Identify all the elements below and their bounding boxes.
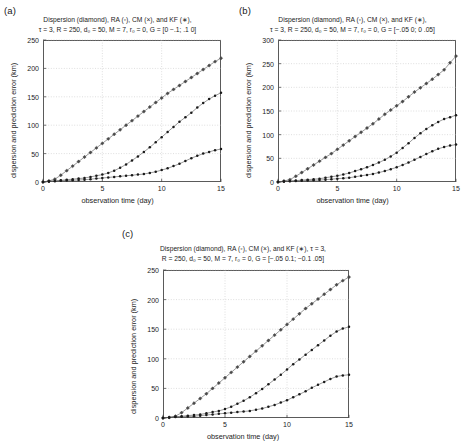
- panel-b-series-markers-2: [277, 143, 458, 183]
- panel-c-x-axis-label: observation time (day): [118, 432, 368, 441]
- panel-b-series-markers-0: [276, 54, 457, 183]
- panel-c-series-markers-0: [161, 275, 350, 419]
- panel-b-series-markers-1: [277, 114, 458, 183]
- panel-c-ytick-250: 250: [147, 267, 159, 274]
- panel-b-ytick-50: 50: [266, 155, 274, 162]
- panel-c-title: Dispersion (diamond), RA (◦), CM (×), an…: [118, 244, 368, 265]
- panel-a-series-markers-2: [42, 148, 223, 183]
- panel-b-ytick-0: 0: [270, 179, 274, 186]
- panel-a-ytick-200: 200: [27, 65, 39, 72]
- panel-b-plot: 050100150200250300051015: [278, 40, 456, 182]
- panel-c-xtick-5: 5: [223, 421, 227, 428]
- panel-a-ytick-250: 250: [27, 37, 39, 44]
- panel-b-xtick-10: 10: [393, 185, 401, 192]
- panel-b-xtick-15: 15: [452, 185, 460, 192]
- panel-c-ytick-50: 50: [151, 385, 159, 392]
- panel-b-ytick-250: 250: [262, 60, 274, 67]
- panel-c-ytick-150: 150: [147, 326, 159, 333]
- panel-a-xtick-15: 15: [217, 185, 225, 192]
- panel-a-title-line-1: Dispersion (diamond), RA (◦), CM (×), an…: [0, 15, 235, 25]
- figure-panel-a: (a) Dispersion (diamond), RA (◦), CM (×)…: [0, 0, 235, 215]
- panel-c-xtick-0: 0: [161, 421, 165, 428]
- panel-b-series-line-0: [278, 56, 456, 182]
- panel-a-x-axis-label: observation time (day): [0, 196, 235, 205]
- panel-c-title-line-1: Dispersion (diamond), RA (◦), CM (×), an…: [118, 244, 368, 254]
- figure-panel-c: (c) Dispersion (diamond), RA (◦), CM (×)…: [118, 218, 368, 440]
- panel-b-title-line-2: τ = 3, R = 250, d₀ = 50, M = 7, r₀ = 0, …: [235, 25, 470, 35]
- panel-a-ytick-0: 0: [35, 179, 39, 186]
- panel-c-series-line-1: [163, 327, 349, 418]
- panel-c-plot: 050100150200250051015: [163, 270, 349, 418]
- panel-b-ytick-300: 300: [262, 37, 274, 44]
- panel-b-ytick-150: 150: [262, 108, 274, 115]
- panel-a-ytick-150: 150: [27, 93, 39, 100]
- panel-b-svg: [278, 40, 456, 182]
- panel-b-ytick-200: 200: [262, 84, 274, 91]
- panel-c-title-line-2: R = 250, d₀ = 50, M = 7, r₀ = 0, G = [−.…: [118, 254, 368, 264]
- panel-a-xtick-10: 10: [158, 185, 166, 192]
- panel-a-series-markers-1: [42, 92, 223, 184]
- panel-b-title: Dispersion (diamond), RA (◦), CM (×), an…: [235, 15, 470, 36]
- panel-c-ytick-0: 0: [155, 415, 159, 422]
- panel-a-svg: [43, 40, 221, 182]
- panel-c-ytick-200: 200: [147, 296, 159, 303]
- panel-b-series-line-2: [278, 145, 456, 182]
- panel-c-series-line-0: [163, 277, 349, 418]
- panel-c-series-markers-1: [162, 326, 351, 420]
- panel-b-ytick-100: 100: [262, 131, 274, 138]
- panel-a-series-line-2: [43, 149, 221, 182]
- panel-c-y-axis-label: dispersion and prediction error (km): [129, 299, 138, 414]
- panel-a-y-axis-label: dispersion and prediction error (km): [9, 63, 18, 178]
- panel-c-series-line-2: [163, 375, 349, 418]
- panel-a-series-markers-0: [41, 56, 222, 183]
- panel-a-ytick-50: 50: [31, 150, 39, 157]
- panel-b-xtick-5: 5: [335, 185, 339, 192]
- panel-a-xtick-0: 0: [41, 185, 45, 192]
- panel-a-title-line-2: τ = 3, R = 250, d₀ = 50, M = 7, r₀ = 0, …: [0, 25, 235, 35]
- panel-c-xtick-10: 10: [283, 421, 291, 428]
- panel-c-series-markers-2: [162, 374, 351, 420]
- panel-a-plot: 050100150200250051015: [43, 40, 221, 182]
- panel-a-xtick-5: 5: [100, 185, 104, 192]
- figure-panel-b: (b) Dispersion (diamond), RA (◦), CM (×)…: [235, 0, 470, 215]
- panel-a-title: Dispersion (diamond), RA (◦), CM (×), an…: [0, 15, 235, 36]
- panel-a-ytick-100: 100: [27, 122, 39, 129]
- panel-c-xtick-15: 15: [345, 421, 353, 428]
- panel-c-ytick-100: 100: [147, 355, 159, 362]
- panel-b-xtick-0: 0: [276, 185, 280, 192]
- panel-b-title-line-1: Dispersion (diamond), RA (◦), CM (×), an…: [235, 15, 470, 25]
- panel-c-svg: [163, 270, 349, 418]
- panel-b-x-axis-label: observation time (day): [235, 196, 470, 205]
- panel-b-y-axis-label: dispersion and prediction error (km): [244, 63, 253, 178]
- panel-label-c: (c): [122, 228, 133, 239]
- panel-b-series-line-1: [278, 115, 456, 182]
